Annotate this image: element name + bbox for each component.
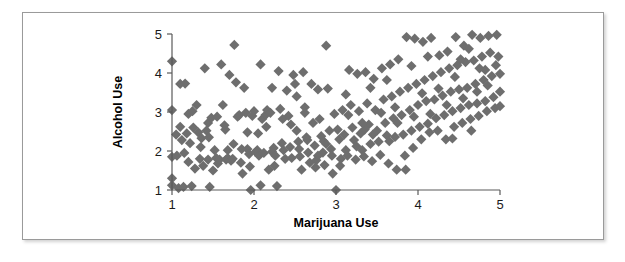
figure-root: 12345 12345 Marijuana Use Alcohol Use <box>0 0 625 262</box>
figure-frame <box>22 12 604 240</box>
